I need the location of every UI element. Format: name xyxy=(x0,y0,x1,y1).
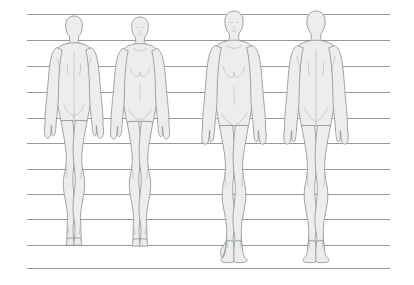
figure-2-silhouette-part xyxy=(139,239,147,246)
proportion-sheet-canvas xyxy=(0,0,414,285)
figure-1-silhouette-part xyxy=(73,238,81,245)
figure-reference-sheet xyxy=(0,0,414,285)
